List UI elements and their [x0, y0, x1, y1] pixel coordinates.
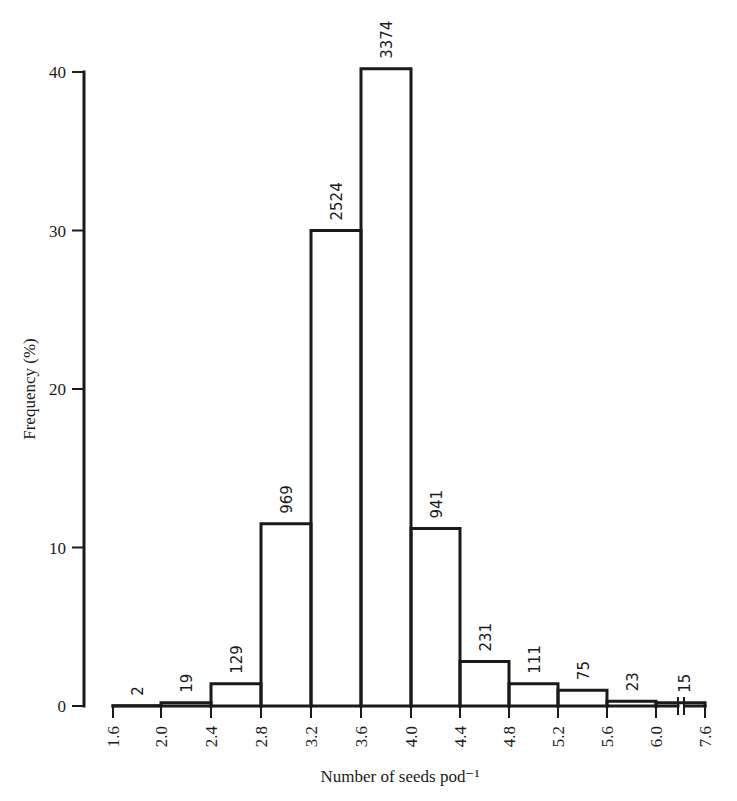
x-tick-label: 4.0 [402, 726, 421, 747]
bar-count-label: 969 [278, 485, 296, 514]
x-tick-label: 3.6 [352, 726, 371, 747]
y-tick-label: 10 [49, 539, 66, 558]
histogram-bar [211, 684, 261, 706]
y-axis: 010203040 [49, 63, 84, 716]
histogram-bar [261, 524, 311, 706]
bars: 21912996925243374941231111752315 [113, 21, 705, 706]
x-tick-label: 4.4 [451, 726, 470, 748]
y-tick-label: 40 [49, 63, 66, 82]
x-axis: 1.62.02.42.83.23.64.04.44.85.25.66.07.6 [104, 697, 715, 747]
x-tick-label: 5.6 [598, 726, 617, 747]
bar-count-label: 231 [477, 623, 495, 652]
x-tick-label: 2.8 [252, 726, 271, 747]
bar-count-label: 111 [526, 645, 544, 674]
y-tick-label: 20 [49, 380, 66, 399]
bar-count-label: 75 [575, 661, 593, 680]
x-tick-label: 2.0 [152, 726, 171, 747]
histogram-bar [361, 69, 411, 706]
x-tick-label: 4.8 [500, 726, 519, 747]
histogram-bar [509, 684, 558, 706]
x-tick-label: 7.6 [696, 726, 715, 747]
histogram-bar [311, 231, 361, 707]
histogram-bar [460, 662, 509, 706]
y-tick-label: 0 [58, 697, 67, 716]
histogram-bar [558, 690, 607, 706]
bar-count-label: 3374 [378, 21, 396, 59]
x-tick-label: 3.2 [302, 726, 321, 747]
bar-count-label: 15 [676, 674, 694, 693]
bar-count-label: 2524 [328, 182, 346, 220]
histogram-bar [411, 528, 460, 706]
x-tick-label: 5.2 [549, 726, 568, 747]
x-axis-title: Number of seeds pod⁻¹ [320, 767, 479, 786]
x-tick-label: 2.4 [202, 726, 221, 748]
bar-count-label: 23 [624, 672, 642, 691]
y-axis-title: Frequency (%) [20, 338, 39, 440]
y-tick-label: 30 [49, 222, 66, 241]
bar-count-label: 129 [228, 645, 246, 674]
bar-count-label: 2 [129, 686, 147, 696]
x-tick-label: 6.0 [647, 726, 666, 747]
bar-count-label: 19 [178, 674, 196, 693]
histogram-chart: 010203040 219129969252433749412311117523… [0, 0, 737, 801]
bar-count-label: 941 [428, 490, 446, 519]
x-tick-label: 1.6 [104, 726, 123, 747]
